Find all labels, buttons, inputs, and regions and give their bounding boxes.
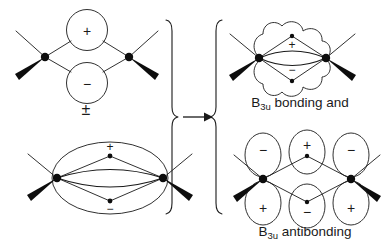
molecular-orbital-diagram: + − ± + — [0, 0, 391, 241]
lobe-sign-top-left: − — [259, 142, 267, 158]
lobe-sign-top-center: + — [303, 137, 311, 153]
bond-line-upper-left — [234, 155, 263, 179]
bond-line-upper-left — [28, 154, 57, 178]
left-bottom-diagram: + − — [27, 140, 193, 216]
wedge-bond-lower-left — [15, 57, 45, 80]
connector-left-bottom — [57, 178, 110, 201]
bonding-caption: B3u bonding and — [251, 95, 349, 112]
right-top-diagram: + − B3u bonding and — [229, 22, 356, 112]
bond-line-upper-right — [326, 34, 355, 58]
bond-line-upper-right — [351, 155, 380, 179]
connector-right-top — [103, 41, 129, 57]
node-dot-bottom — [290, 79, 294, 83]
node-dot-top-center — [305, 154, 309, 158]
connector-right-top — [110, 156, 163, 178]
vertex-dot-left — [259, 175, 267, 183]
closing-brace-left-group — [166, 20, 178, 214]
lobe-sign-top: + — [106, 140, 113, 154]
vertex-dot-right — [322, 54, 330, 62]
connector-right-bottom — [292, 58, 326, 81]
wedge-bond-lower-right — [163, 178, 193, 201]
connector-left-bottom — [45, 57, 71, 72]
lobe-sign-top: + — [288, 38, 295, 52]
lobe-sign-top-right: − — [347, 142, 355, 158]
vertex-dot-right — [125, 53, 133, 61]
vertex-dot-right — [347, 175, 355, 183]
bond-line-upper-right — [163, 154, 192, 178]
bonding-caption-symbol: B — [251, 95, 260, 110]
node-dot-bottom-center — [305, 200, 309, 204]
connector-left-bottom — [259, 58, 292, 81]
antibonding-caption-rest: antibonding — [278, 224, 352, 239]
antibonding-caption: B3u antibonding — [258, 224, 351, 241]
connector-right-bottom — [103, 57, 129, 72]
lobe-sign-bottom: − — [106, 202, 113, 216]
wedge-bond-lower-right — [129, 57, 159, 80]
lens-arc-upper — [259, 51, 326, 58]
bonding-caption-subscript: 3u — [260, 101, 271, 112]
connector-right-bottom — [110, 178, 163, 201]
lobe-sign-bottom-right: + — [347, 200, 355, 216]
connector-right-top — [292, 36, 326, 58]
antibonding-caption-subscript: 3u — [267, 230, 278, 241]
lobe-sign-bottom-center: − — [303, 204, 311, 220]
connector-left-top — [259, 36, 292, 58]
left-top-diagram: + − — [15, 10, 159, 104]
antibonding-caption-symbol: B — [258, 224, 267, 239]
vertex-dot-right — [159, 174, 167, 182]
connector-left-top — [45, 41, 71, 57]
bond-line-upper-left — [230, 34, 259, 58]
right-bottom-diagram: − + − + − + B3u antibonding — [233, 130, 381, 241]
lens-arc-upper — [57, 170, 163, 179]
lobe-sign-top: + — [83, 23, 91, 39]
bonding-caption-rest: bonding and — [271, 95, 349, 110]
lens-arc-lower — [57, 178, 163, 187]
vertex-dot-left — [53, 174, 61, 182]
node-dot-top — [108, 154, 113, 159]
lobe-sign-bottom: − — [83, 76, 91, 92]
lobe-sign-bottom: − — [288, 63, 295, 77]
figure-root: + − ± + — [0, 0, 391, 241]
connector-left-top — [57, 156, 110, 178]
lobe-sign-bottom-left: + — [259, 200, 267, 216]
bond-line-upper-right — [129, 31, 158, 57]
plus-minus-operator: ± — [82, 101, 91, 118]
vertex-dot-left — [255, 54, 263, 62]
opening-brace-right-group — [210, 20, 222, 214]
bond-line-upper-left — [16, 31, 45, 57]
wedge-bond-lower-left — [27, 178, 57, 201]
vertex-dot-left — [41, 53, 49, 61]
orbital-cloud-envelope — [254, 22, 330, 97]
